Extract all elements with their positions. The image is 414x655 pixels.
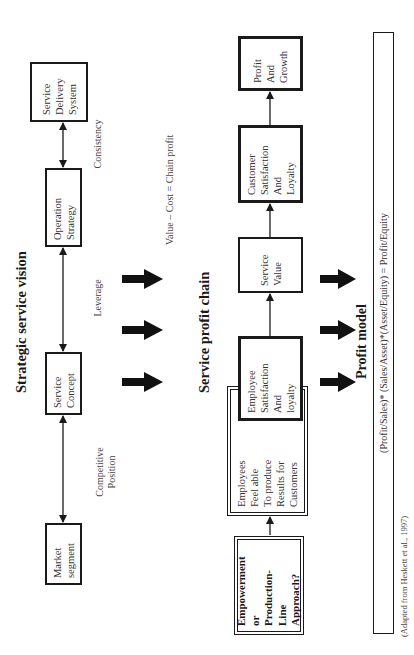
empowerment-box: Empowerment or Production- Line Approach… bbox=[234, 536, 304, 635]
service-value-box: Service Value bbox=[238, 237, 303, 293]
operation-strategy-box: Operation Strategy bbox=[45, 168, 82, 247]
service-concept-box: Service Concept bbox=[45, 352, 82, 415]
profit-formula: (Profit/Sales)* (Sales/Asset)*(Asset/Equ… bbox=[378, 213, 389, 453]
consistency-label: Consistency bbox=[92, 119, 104, 169]
profit-model-title: Profit model bbox=[354, 304, 370, 379]
service-profit-chain-diagram: Strategic service vision Market segment … bbox=[0, 0, 414, 655]
service-delivery-system-box: Service Delivery System bbox=[30, 62, 88, 122]
thick-arrow-upper-1 bbox=[122, 372, 163, 392]
value-equation-label: Value – Cost = Chain profit bbox=[164, 135, 176, 245]
thick-arrow-lower-3 bbox=[320, 269, 356, 289]
thick-arrow-lower-1 bbox=[320, 372, 356, 392]
thick-arrow-upper-3 bbox=[122, 269, 163, 289]
strategic-vision-title: Strategic service vision bbox=[13, 251, 30, 393]
thick-arrow-upper-2 bbox=[122, 320, 163, 340]
profit-formula-box: (Profit/Sales)* (Sales/Asset)*(Asset/Equ… bbox=[373, 32, 394, 634]
thick-arrow-lower-2 bbox=[320, 320, 356, 340]
citation: (Adapted from Heskett et al., 1997) bbox=[399, 516, 409, 637]
competitive-position-label: Competitive Position bbox=[94, 447, 118, 497]
profit-growth-box: Profit And Growth bbox=[238, 36, 303, 91]
market-segment-box: Market segment bbox=[45, 523, 82, 585]
profit-chain-title: Service profit chain bbox=[196, 272, 213, 393]
customer-satisfaction-box: Customer Satisfaction And Loyalty bbox=[238, 125, 303, 203]
employee-satisfaction-box: Employee Satisfaction And loyalty bbox=[238, 336, 303, 421]
leverage-label: Leverage bbox=[92, 277, 104, 319]
